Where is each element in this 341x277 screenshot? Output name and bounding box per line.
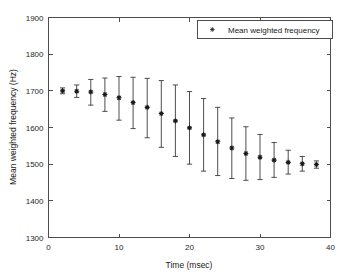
x-tick-label: 0	[46, 243, 51, 252]
x-tick-label: 20	[185, 243, 194, 252]
legend-star-marker	[210, 27, 215, 32]
y-tick-label: 1700	[26, 87, 44, 96]
y-tick-label: 1500	[26, 160, 44, 169]
star-marker	[314, 162, 319, 167]
y-tick-label: 1900	[26, 14, 44, 23]
y-tick-label: 1400	[26, 197, 44, 206]
star-marker	[243, 151, 248, 156]
x-tick-label: 30	[256, 243, 265, 252]
x-tick-label: 40	[326, 243, 335, 252]
x-axis-title: Time (msec)	[166, 260, 213, 270]
star-marker	[229, 146, 234, 151]
star-marker	[145, 105, 150, 110]
star-marker	[187, 125, 192, 130]
star-marker	[60, 88, 65, 93]
chart-figure: 1300140015001600170018001900 010203040 T…	[0, 0, 341, 277]
chart-legend: Mean weighted frequency	[198, 21, 333, 39]
star-marker	[201, 132, 206, 137]
y-tick-label: 1300	[26, 234, 44, 243]
x-tick-label: 10	[115, 243, 124, 252]
star-marker	[88, 89, 93, 94]
y-tick-label: 1600	[26, 124, 44, 133]
scatter-plot-with-error-bars: 1300140015001600170018001900 010203040 T…	[0, 0, 341, 277]
star-marker	[286, 160, 291, 165]
y-tick-label: 1800	[26, 50, 44, 59]
star-marker	[102, 92, 107, 97]
star-marker	[159, 111, 164, 116]
star-marker	[74, 89, 79, 94]
star-marker	[117, 95, 122, 100]
star-marker	[173, 118, 178, 123]
star-marker	[131, 100, 136, 105]
legend-label: Mean weighted frequency	[228, 26, 320, 35]
star-marker	[300, 161, 305, 166]
star-marker	[272, 158, 277, 163]
star-marker	[215, 139, 220, 144]
star-marker	[258, 155, 263, 160]
y-axis-title: Mean weighted frequency (Hz)	[8, 69, 18, 185]
